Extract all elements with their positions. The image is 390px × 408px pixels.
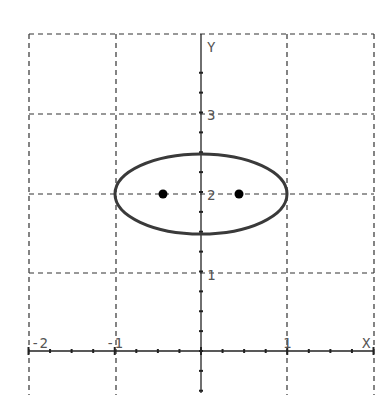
axes [29,34,374,393]
x-tick-label-neg2: -2 [31,335,48,351]
x-axis-label: X [362,335,371,351]
graph-plot: Y X -2 -1 1 3 2 1 [0,0,390,408]
y-tick-label-1: 1 [207,267,215,283]
x-tick-label-1: 1 [283,335,291,351]
point-right [235,190,244,199]
y-tick-label-3: 3 [207,107,215,123]
point-left [159,190,168,199]
y-axis-label: Y [207,39,216,55]
y-tick-label-2: 2 [207,187,215,203]
x-tick-label-neg1: -1 [106,335,123,351]
